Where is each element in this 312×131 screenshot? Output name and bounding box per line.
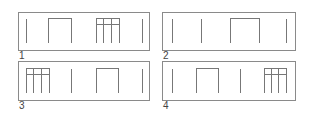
- bar-glyph: [240, 69, 241, 93]
- arch-glyph: [230, 18, 260, 43]
- panel-label-2: 2: [163, 51, 169, 61]
- grid-glyph: [96, 18, 120, 43]
- bar-glyph: [26, 19, 27, 43]
- bar-glyph: [286, 19, 287, 43]
- bar-glyph: [142, 19, 143, 43]
- bar-glyph: [201, 19, 202, 43]
- grid-glyph: [26, 68, 50, 93]
- bar-glyph: [172, 19, 173, 43]
- arch-glyph: [48, 18, 72, 43]
- panel-label-4: 4: [163, 101, 169, 111]
- panel-2: [162, 12, 296, 51]
- panel-label-3: 3: [19, 101, 25, 111]
- bar-glyph: [71, 69, 72, 93]
- arch-glyph: [96, 68, 119, 93]
- bar-glyph: [142, 69, 143, 93]
- arch-glyph: [196, 68, 219, 93]
- panel-1: [18, 12, 150, 51]
- panel-label-1: 1: [19, 51, 25, 61]
- bar-glyph: [172, 69, 173, 93]
- grid-glyph: [264, 68, 287, 93]
